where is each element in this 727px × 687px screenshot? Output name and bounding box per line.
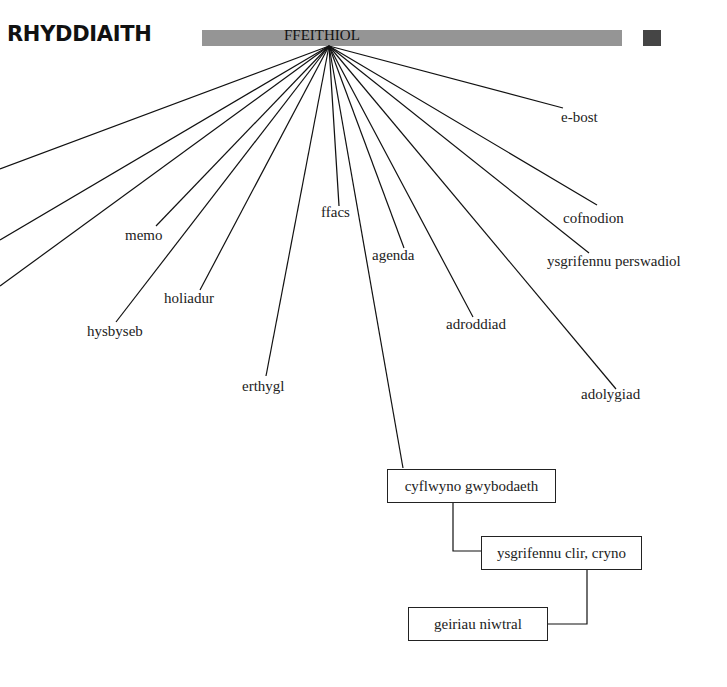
leaf-holiadur: holiadur bbox=[164, 290, 214, 307]
leaf-cofnodion: cofnodion bbox=[563, 210, 624, 227]
connector-lines bbox=[0, 0, 727, 687]
leaf-agenda: agenda bbox=[372, 247, 414, 264]
chain-box-geiriau-niwtral: geiriau niwtral bbox=[408, 607, 548, 641]
leaf-ffacs: ffacs bbox=[321, 204, 350, 221]
chain-box-ysgrifennu-clir-cryno: ysgrifennu clir, cryno bbox=[481, 536, 642, 570]
leaf-hysbyseb: hysbyseb bbox=[87, 323, 143, 340]
leaf-adroddiad: adroddiad bbox=[446, 316, 506, 333]
leaf-ysgrifennu-perswadiol: ysgrifennu perswadiol bbox=[547, 253, 681, 270]
leaf-adolygiad: adolygiad bbox=[581, 386, 640, 403]
chain-box-cyflwyno-gwybodaeth: cyflwyno gwybodaeth bbox=[387, 469, 556, 503]
leaf-e-bost: e-bost bbox=[561, 109, 598, 126]
leaf-memo: memo bbox=[125, 227, 163, 244]
leaf-erthygl: erthygl bbox=[242, 378, 285, 395]
